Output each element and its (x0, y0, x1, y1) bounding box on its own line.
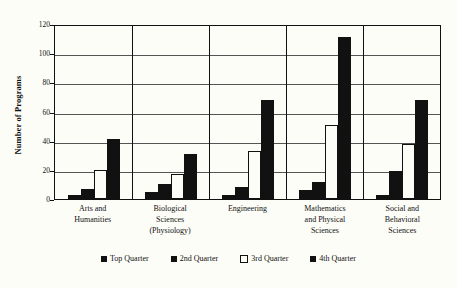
legend-item[interactable]: 4th Quarter (310, 254, 356, 263)
bar-groups (55, 26, 440, 199)
bar-group (209, 26, 286, 199)
category-label-line: Mathematics (286, 203, 363, 214)
bar (235, 187, 248, 199)
bar (94, 170, 107, 199)
x-axis-category-labels: Arts andHumanitiesBiologicalSciences(Phy… (54, 203, 441, 236)
legend-item[interactable]: Top Quarter (101, 254, 149, 263)
plot-area (54, 25, 441, 200)
legend-swatch-icon (310, 256, 316, 262)
bar (389, 171, 402, 199)
bar (222, 195, 235, 199)
category-label-line: Arts and (54, 203, 131, 214)
legend-item-label: 3rd Quarter (251, 254, 288, 263)
chart-legend: Top Quarter2nd Quarter3rd Quarter4th Qua… (0, 254, 457, 263)
bar (145, 192, 158, 199)
bar-chart: Number of Programs 020406080100120 Arts … (0, 0, 457, 288)
bar (312, 182, 325, 200)
category-label-line: Sciences (364, 225, 441, 236)
bar (81, 189, 94, 199)
legend-swatch-icon (101, 256, 107, 262)
bar (415, 100, 428, 199)
bar-group (363, 26, 440, 199)
legend-item-label: 2nd Quarter (180, 254, 218, 263)
x-axis-category-label: BiologicalSciences(Physiology) (131, 203, 208, 236)
bar (402, 144, 415, 199)
category-label-line: Sciences (286, 225, 363, 236)
y-axis-tick-label: 20 (24, 166, 50, 175)
x-axis-category-label: Social andBehavioralSciences (364, 203, 441, 236)
legend-item[interactable]: 3rd Quarter (240, 254, 288, 263)
legend-item[interactable]: 2nd Quarter (171, 254, 218, 263)
y-axis-tick-label: 120 (24, 20, 50, 29)
y-axis-tick-label: 0 (24, 195, 50, 204)
bar-group (55, 26, 132, 199)
legend-item-label: 4th Quarter (319, 254, 356, 263)
category-label-line: (Physiology) (131, 225, 208, 236)
bar (248, 151, 261, 199)
bar-group (132, 26, 209, 199)
y-axis-tick-label: 40 (24, 137, 50, 146)
legend-swatch-icon (171, 256, 177, 262)
x-axis-category-label: Engineering (209, 203, 286, 236)
y-axis-tick-label: 60 (24, 108, 50, 117)
bar (325, 125, 338, 199)
bar (107, 139, 120, 199)
bar (68, 195, 81, 199)
x-axis-category-label: Mathematicsand PhysicalSciences (286, 203, 363, 236)
bar (184, 154, 197, 199)
category-label-line: and Physical (286, 214, 363, 225)
bar (299, 190, 312, 199)
bar (171, 174, 184, 199)
y-axis-tick-label: 100 (24, 49, 50, 58)
bar (338, 37, 351, 199)
category-label-line: Humanities (54, 214, 131, 225)
y-axis-tick-mark (50, 200, 54, 201)
category-label-line: Sciences (131, 214, 208, 225)
category-label-line: Biological (131, 203, 208, 214)
y-axis-tick-label: 80 (24, 78, 50, 87)
legend-item-label: Top Quarter (110, 254, 149, 263)
legend-swatch-icon (240, 255, 248, 263)
category-label-line: Engineering (209, 203, 286, 214)
bar (158, 184, 171, 199)
bar (261, 100, 274, 199)
bar (376, 195, 389, 199)
category-label-line: Social and (364, 203, 441, 214)
y-axis-title-text: Number of Programs (13, 76, 23, 155)
x-axis-category-label: Arts andHumanities (54, 203, 131, 236)
category-label-line: Behavioral (364, 214, 441, 225)
bar-group (286, 26, 363, 199)
